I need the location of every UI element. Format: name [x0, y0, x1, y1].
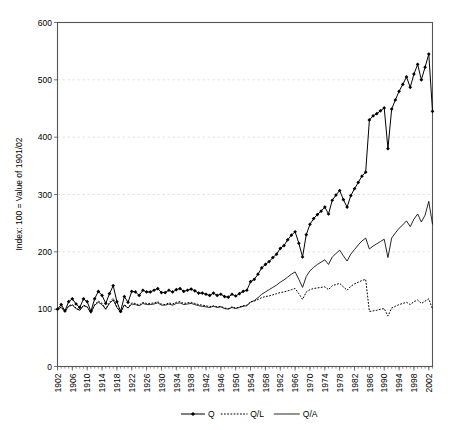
x-tick-label: 1982: [350, 373, 360, 392]
x-tick-label: 1922: [127, 373, 137, 392]
y-tick-label: 0: [47, 362, 52, 372]
x-tick-label: 1954: [246, 373, 256, 392]
data-point-marker: [408, 85, 412, 89]
data-point-marker: [327, 212, 331, 216]
x-tick-label: 1994: [394, 373, 404, 392]
data-point-marker: [200, 291, 204, 295]
data-point-marker: [386, 147, 390, 151]
legend-label-q-l: Q/L: [250, 409, 264, 419]
data-point-marker: [390, 107, 394, 111]
chart-container: 0100200300400500600 19021906191019141918…: [0, 0, 451, 430]
data-point-marker: [342, 198, 346, 202]
x-tick-label: 1950: [231, 373, 241, 392]
line-chart: 0100200300400500600 19021906191019141918…: [0, 0, 451, 430]
y-axis-title: Index: 100 = Value of 1901/02: [14, 137, 24, 250]
data-point-marker: [412, 72, 416, 76]
data-point-marker: [186, 288, 190, 292]
data-point-marker: [405, 75, 409, 79]
data-point-marker: [431, 110, 435, 114]
y-tick-label: 600: [38, 18, 52, 28]
data-point-marker: [397, 89, 401, 93]
x-tick-label: 2002: [424, 373, 434, 392]
axis-ticks: [54, 23, 433, 371]
data-point-marker: [301, 255, 305, 259]
y-tick-label: 100: [38, 304, 52, 314]
series-line-q: [58, 54, 433, 311]
data-point-marker: [401, 83, 405, 87]
legend-label-q: Q: [208, 409, 215, 419]
x-tick-label: 1930: [157, 373, 167, 392]
x-tick-label: 1938: [186, 373, 196, 392]
x-tick-label: 1970: [305, 373, 315, 392]
x-tick-label: 1962: [275, 373, 285, 392]
x-tick-label: 1918: [112, 373, 122, 392]
data-series: [56, 52, 435, 316]
x-tick-label: 1910: [82, 373, 92, 392]
x-tick-label: 1934: [172, 373, 182, 392]
data-point-marker: [245, 288, 249, 292]
data-point-marker: [204, 292, 208, 296]
y-axis-tick-labels: 0100200300400500600: [38, 18, 52, 372]
x-tick-label: 1998: [409, 373, 419, 392]
x-tick-label: 1974: [320, 373, 330, 392]
x-tick-label: 1942: [201, 373, 211, 392]
legend-label-q-a: Q/A: [303, 409, 318, 419]
x-tick-label: 1986: [365, 373, 375, 392]
data-point-marker: [416, 63, 420, 67]
x-tick-label: 1926: [142, 373, 152, 392]
data-point-marker: [104, 302, 108, 306]
x-tick-label: 1958: [261, 373, 271, 392]
x-tick-label: 1990: [379, 373, 389, 392]
x-tick-label: 1966: [290, 373, 300, 392]
data-point-marker: [93, 297, 97, 301]
x-axis-tick-labels: 1902190619101914191819221926193019341938…: [53, 373, 434, 392]
x-tick-label: 1902: [53, 373, 63, 392]
x-tick-label: 1906: [68, 373, 78, 392]
x-tick-label: 1914: [97, 373, 107, 392]
data-point-marker: [394, 98, 398, 102]
data-point-marker: [189, 287, 193, 291]
data-point-marker: [345, 205, 349, 209]
data-point-marker: [148, 290, 152, 294]
x-tick-label: 1946: [216, 373, 226, 392]
data-point-marker: [427, 52, 431, 56]
data-point-marker: [130, 290, 134, 294]
data-point-marker: [152, 288, 156, 292]
data-point-marker: [145, 290, 149, 294]
data-point-marker: [297, 241, 301, 245]
data-point-marker: [108, 292, 112, 296]
y-tick-label: 200: [38, 247, 52, 257]
chart-legend: QQ/LQ/A: [181, 409, 318, 419]
series-line-q-a: [58, 201, 433, 312]
data-point-marker: [423, 65, 427, 69]
data-point-marker: [304, 233, 308, 237]
y-tick-label: 400: [38, 132, 52, 142]
y-tick-label: 500: [38, 75, 52, 85]
x-tick-label: 1978: [335, 373, 345, 392]
data-point-marker: [111, 284, 115, 288]
y-tick-label: 300: [38, 190, 52, 200]
data-point-marker: [420, 78, 424, 82]
